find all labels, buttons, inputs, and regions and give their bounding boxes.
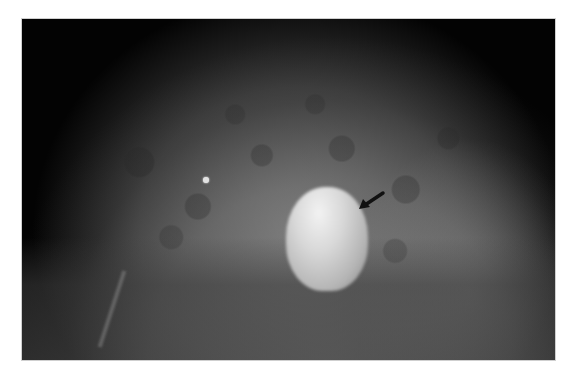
lower-tissue-shadow bbox=[22, 19, 555, 360]
arrow-annotation-icon bbox=[356, 190, 386, 212]
mammogram-image bbox=[21, 18, 556, 361]
calcification-dot bbox=[203, 177, 209, 183]
